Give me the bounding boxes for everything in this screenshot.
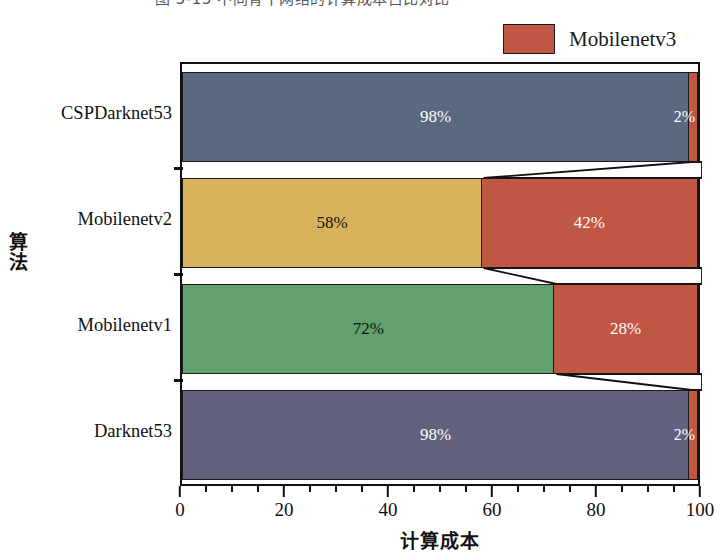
segment-value-label: 98% [420, 425, 451, 445]
x-axis-minor-tick [335, 486, 337, 492]
bar-row[interactable]: 58%42% [182, 178, 698, 268]
plot-area: 98%2%58%42%72%28%98%2% [180, 62, 700, 486]
bar-row[interactable]: 72%28% [182, 284, 698, 374]
bar-row[interactable]: 98%2% [182, 72, 698, 162]
x-axis-tick-label: 20 [275, 499, 294, 521]
y-axis-tick-label: CSPDarknet53 [61, 103, 172, 124]
segment-value-label: 72% [353, 319, 384, 339]
legend-swatch-mobilenetv3 [503, 24, 555, 54]
figure-caption: 图 5-13 不同骨干网络的计算成本占比对比 [155, 0, 450, 8]
x-axis-minor-tick [621, 486, 623, 492]
figure-caption-strip: 图 5-13 不同骨干网络的计算成本占比对比 [0, 0, 720, 12]
x-axis-tick-label: 100 [686, 499, 715, 521]
y-axis-tick-label: Mobilenetv2 [77, 209, 172, 230]
x-axis-major-tick [387, 486, 389, 497]
x-axis-major-tick [179, 486, 181, 497]
x-axis-minor-tick [543, 486, 545, 492]
legend: Mobilenetv3 [503, 24, 676, 54]
x-axis-minor-tick [647, 486, 649, 492]
bar-segment-mobilenetv3[interactable]: 42% [481, 178, 698, 268]
bar-segment-mobilenetv3[interactable]: 2% [688, 390, 698, 480]
x-axis-tick-label: 40 [379, 499, 398, 521]
y-axis-tick [174, 379, 183, 382]
segment-value-label: 28% [610, 319, 641, 339]
x-axis-major-tick [283, 486, 285, 497]
bar-segment-backbone[interactable]: 98% [182, 72, 689, 162]
x-axis-minor-tick [231, 486, 233, 492]
y-axis-tick [174, 273, 183, 276]
segment-value-label: 58% [317, 213, 348, 233]
y-axis-title: 算法 [4, 232, 31, 272]
segment-value-label: 42% [574, 213, 605, 233]
segment-value-label: 98% [420, 107, 451, 127]
x-axis-minor-tick [361, 486, 363, 492]
x-axis-minor-tick [673, 486, 675, 492]
x-axis-major-tick [699, 486, 701, 497]
x-axis-minor-tick [309, 486, 311, 492]
legend-label-mobilenetv3: Mobilenetv3 [569, 27, 676, 52]
x-axis-tick-label: 80 [587, 499, 606, 521]
bar-segment-backbone[interactable]: 72% [182, 284, 555, 374]
bar-row[interactable]: 98%2% [182, 390, 698, 480]
x-axis-minor-tick [569, 486, 571, 492]
y-axis-tick-label: Darknet53 [94, 421, 172, 442]
x-axis-minor-tick [517, 486, 519, 492]
x-axis-major-tick [491, 486, 493, 497]
x-axis-minor-tick [257, 486, 259, 492]
x-axis-title: 计算成本 [400, 526, 480, 553]
x-axis-minor-tick [413, 486, 415, 492]
bar-segment-mobilenetv3[interactable]: 28% [553, 284, 698, 374]
bars-container: 98%2%58%42%72%28%98%2% [182, 64, 698, 484]
bar-segment-mobilenetv3[interactable]: 2% [688, 72, 698, 162]
y-axis-tick [174, 167, 183, 170]
x-axis-minor-tick [439, 486, 441, 492]
bar-segment-backbone[interactable]: 98% [182, 390, 689, 480]
y-axis-labels: CSPDarknet53Mobilenetv2Mobilenetv1Darkne… [0, 62, 172, 486]
x-axis-tick-label: 0 [175, 499, 185, 521]
x-axis-minor-tick [465, 486, 467, 492]
x-axis: 计算成本 020406080100 [180, 486, 700, 556]
y-axis-tick-label: Mobilenetv1 [77, 315, 172, 336]
x-axis-minor-tick [205, 486, 207, 492]
x-axis-tick-label: 60 [483, 499, 502, 521]
bar-segment-backbone[interactable]: 58% [182, 178, 482, 268]
x-axis-major-tick [595, 486, 597, 497]
